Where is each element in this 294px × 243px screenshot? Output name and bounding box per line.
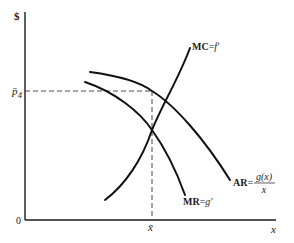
quantity-tick-label: x̄ [147,221,153,233]
svg-text:p̄: p̄ [11,85,18,97]
origin-label: 0 [16,215,21,226]
price-tick-label: p̄ 4 [11,85,22,100]
y-axis-label: $ [14,10,20,22]
ar-label: AR= g(x) x [233,171,275,195]
x-axis-label: x [270,223,276,235]
svg-text:MR=g′: MR=g′ [183,196,213,207]
svg-text:MC=f′: MC=f′ [192,41,220,52]
mr-curve [85,82,185,195]
monopoly-diagram: $ 0 x p̄ 4 x̄ MC=f′ MR=g′ AR= g(x) x [0,0,294,243]
svg-text:4: 4 [18,91,22,100]
ar-curve [90,72,230,180]
mr-label: MR=g′ [183,196,213,207]
ar-numerator: g(x) [256,171,273,183]
ar-denominator: x [261,184,267,195]
svg-text:AR=: AR= [233,177,253,188]
mc-label: MC=f′ [192,41,220,52]
